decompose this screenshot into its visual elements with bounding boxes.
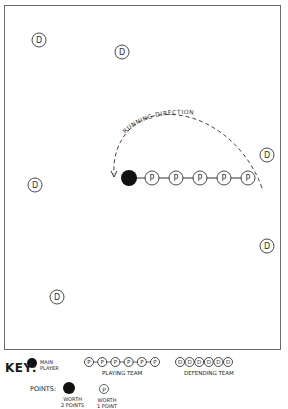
svg-text:P: P: [174, 174, 179, 183]
svg-text:P: P: [198, 174, 203, 183]
svg-text:P: P: [150, 174, 155, 183]
running-direction-label: RUNNING DIRECTION: [121, 108, 194, 134]
svg-text:D: D: [119, 48, 125, 57]
defending-team-player: D: [32, 33, 46, 47]
svg-text:D: D: [264, 242, 270, 251]
points-label: POINTS:: [30, 385, 56, 393]
svg-text:D: D: [264, 151, 270, 160]
defending-team: DDDDDD: [28, 33, 274, 304]
playing-team-player: P: [145, 171, 159, 185]
playing-team-key-label: PLAYING TEAM: [102, 370, 142, 376]
playing-team-player: P: [169, 171, 183, 185]
legend: KEY: MAIN PLAYER PLAYING TEAM DEFENDING …: [0, 355, 288, 409]
playing-team-player: P: [241, 171, 255, 185]
svg-text:D: D: [36, 36, 42, 45]
defending-team-key-label: DEFENDING TEAM: [184, 370, 234, 376]
defending-team-player: D: [260, 148, 274, 162]
playing-team-player: P: [217, 171, 231, 185]
defending-team-player: D: [115, 45, 129, 59]
main-player-icon: [121, 170, 137, 186]
defending-team-player: D: [50, 290, 64, 304]
worth-1-point-label: WORTH 1 POINT: [97, 397, 117, 409]
svg-text:D: D: [54, 293, 60, 302]
svg-text:P: P: [222, 174, 227, 183]
defending-team-player: D: [28, 178, 42, 192]
diagram-canvas: RUNNING DIRECTION PPPPP DDDDDD PPPPPP DD…: [0, 0, 288, 409]
main-player-key-label: MAIN PLAYER: [40, 359, 59, 371]
worth-2-points-label: WORTH 2 POINTS: [61, 396, 84, 408]
defending-team-player: D: [260, 239, 274, 253]
svg-text:D: D: [32, 181, 38, 190]
playing-team-player: P: [193, 171, 207, 185]
key-title: KEY:: [5, 361, 37, 375]
svg-text:P: P: [246, 174, 251, 183]
